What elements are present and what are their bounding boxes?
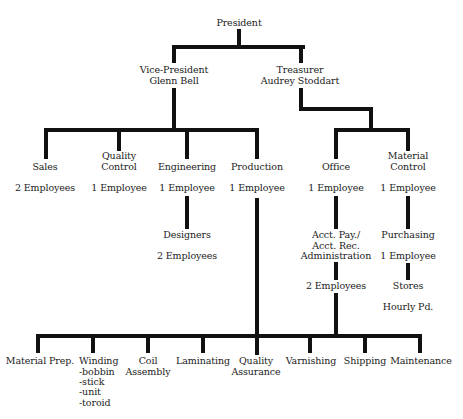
connector-line [201, 334, 205, 353]
node-production: Production [231, 162, 283, 173]
node-coil-assembly-line1: Coil [139, 356, 158, 367]
node-purchasing: Purchasing [381, 230, 434, 241]
connector-line [299, 45, 303, 63]
node-quality-assurance-line1: Quality [239, 356, 273, 367]
node-quality-control-staff: 1 Employee [91, 183, 146, 194]
connector-line [91, 334, 95, 353]
connector-line [406, 196, 410, 229]
connector-line [172, 45, 305, 49]
node-office-staff: 1 Employee [308, 183, 363, 194]
node-office: Office [322, 162, 350, 173]
node-engineering-staff: 1 Employee [159, 183, 214, 194]
node-president: President [216, 18, 261, 29]
node-designers-staff: 2 Employees [157, 251, 217, 262]
node-purchasing-staff: 1 Employee [380, 251, 435, 262]
connector-line [334, 196, 338, 229]
connector-line [334, 128, 410, 132]
node-material-control-staff: 1 Employee [380, 183, 435, 194]
connector-line [172, 88, 176, 131]
node-quality-assurance-line2: Assurance [231, 367, 280, 378]
org-chart: President Vice-President Glenn Bell Trea… [0, 0, 463, 419]
node-engineering: Engineering [158, 162, 216, 173]
connector-line [36, 334, 40, 353]
node-material-prep: Material Prep. [6, 356, 74, 367]
node-winding-item: -unit [79, 387, 101, 398]
node-vice-president-name: Glenn Bell [149, 76, 198, 87]
connector-line [146, 334, 150, 353]
node-coil-assembly-line2: Assembly [126, 367, 171, 378]
connector-line [334, 128, 338, 159]
node-maintenance: Maintenance [390, 356, 452, 367]
connector-line [172, 45, 176, 63]
node-sales: Sales [32, 162, 57, 173]
connector-line [44, 128, 48, 159]
node-accounts-line1: Acct. Pay./ [312, 230, 360, 241]
connector-line [299, 107, 373, 111]
node-treasurer-name: Audrey Stoddart [261, 76, 339, 87]
node-production-staff: 1 Employee [229, 183, 284, 194]
connector-line [363, 334, 367, 353]
node-stores-staff: Hourly Pd. [383, 302, 434, 313]
connector-line [418, 334, 422, 353]
connector-line [406, 128, 410, 151]
node-quality-control-line2: Control [101, 162, 137, 173]
connector-line [406, 263, 410, 280]
node-winding: Winding [79, 356, 118, 367]
node-varnishing: Varnishing [286, 356, 337, 367]
node-material-control-line2: Control [390, 162, 426, 173]
connector-line [185, 128, 189, 159]
node-material-control-line1: Material [388, 151, 428, 162]
connector-line [255, 128, 259, 159]
connector-line [334, 262, 338, 280]
node-winding-item: -toroid [79, 398, 110, 409]
node-treasurer-title: Treasurer [277, 65, 324, 76]
node-laminating: Laminating [176, 356, 230, 367]
node-accounts-staff: 2 Employees [306, 281, 366, 292]
node-shipping: Shipping [344, 356, 386, 367]
node-stores: Stores [393, 281, 423, 292]
connector-line [308, 334, 312, 353]
connector-line [255, 198, 259, 355]
connector-line [334, 293, 338, 338]
connector-line [117, 128, 121, 151]
node-designers: Designers [163, 230, 211, 241]
node-accounts-line3: Administration [301, 251, 371, 262]
connector-line [185, 196, 189, 229]
connector-line [44, 128, 259, 132]
node-quality-control-line1: Quality [102, 151, 136, 162]
node-sales-staff: 2 Employees [15, 183, 75, 194]
node-vice-president-title: Vice-President [140, 65, 209, 76]
